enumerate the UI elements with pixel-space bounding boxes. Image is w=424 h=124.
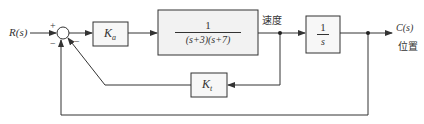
tachometer-label-sub: t (210, 84, 212, 93)
velocity-pickoff-node (278, 31, 282, 35)
integrator-fraction-bar (317, 34, 329, 35)
summing-junction (57, 27, 69, 39)
amplifier-label-sub: a (112, 33, 116, 42)
tachometer-label-main: K (202, 77, 210, 91)
plant-numerator: 1 (168, 19, 248, 31)
sign-inner-feedback: − (74, 36, 80, 47)
sign-outer-feedback: − (50, 38, 56, 49)
plant-fraction-bar (175, 32, 241, 33)
integrator-denominator: s (306, 36, 340, 48)
amplifier-label: Ka (104, 26, 116, 42)
output-label: C(s) (396, 22, 413, 33)
integrator-numerator: 1 (306, 21, 340, 33)
position-label: 位置 (398, 38, 418, 53)
plant-denominator: (s+3)(s+7) (168, 34, 248, 46)
plant-transfer-function: 1 (s+3)(s+7) (168, 19, 248, 46)
tachometer-label: Kt (202, 77, 212, 93)
sign-reference: + (50, 20, 56, 31)
amplifier-label-main: K (104, 26, 112, 40)
integrator-transfer-function: 1 s (306, 21, 340, 48)
velocity-label: 速度 (262, 12, 282, 27)
input-label: R(s) (9, 26, 27, 38)
input-label-text: R(s) (9, 26, 27, 38)
position-pickoff-node (366, 31, 370, 35)
